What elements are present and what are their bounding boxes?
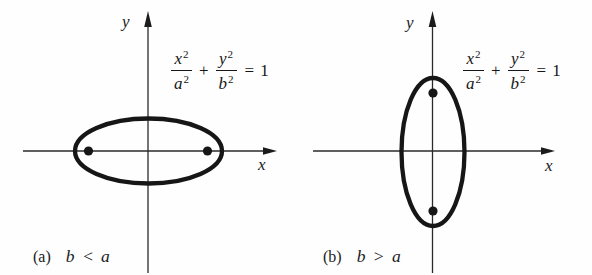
eq-b: b: [219, 74, 228, 93]
eq-x-exponent: 2: [475, 48, 481, 60]
x-axis-arrowhead-icon: [541, 147, 555, 155]
eq-a: a: [466, 74, 475, 93]
ellipse-equation-a: x2 a2 + y2 b2 = 1: [171, 49, 269, 92]
eq-b-exponent: 2: [520, 73, 526, 85]
ellipse-figure: y x x2 a2 + y2 b2 = 1 (a) b < a y x x2 a…: [0, 0, 592, 275]
x-axis-label: x: [545, 157, 553, 174]
eq-b: b: [511, 74, 520, 93]
fraction-y2-b2: y2 b2: [216, 49, 237, 92]
eq-x: x: [174, 49, 182, 68]
eq-a: a: [174, 74, 183, 93]
x-axis-label: x: [258, 156, 266, 173]
fraction-x2-a2: x2 a2: [463, 49, 484, 92]
focus-dot-top: [428, 88, 437, 97]
diagram-canvas: [0, 0, 592, 275]
focus-dot-right: [203, 146, 212, 155]
eq-rhs: 1: [552, 62, 561, 79]
ellipse-equation-b: x2 a2 + y2 b2 = 1: [463, 49, 561, 92]
eq-y: y: [511, 49, 519, 68]
eq-rhs: 1: [260, 62, 269, 79]
fraction-x2-a2: x2 a2: [171, 49, 192, 92]
caption-b: (b) b > a: [323, 248, 402, 266]
fraction-y2-b2: y2 b2: [508, 49, 529, 92]
caption-b-condition: b > a: [357, 248, 403, 266]
plus-sign: +: [491, 62, 501, 79]
caption-a: (a) b < a: [33, 248, 111, 266]
equals-sign: =: [245, 62, 255, 79]
plus-sign: +: [199, 62, 209, 79]
x-axis-arrowhead-icon: [263, 147, 277, 155]
eq-x-exponent: 2: [183, 48, 189, 60]
eq-y-exponent: 2: [520, 48, 526, 60]
eq-y-exponent: 2: [228, 48, 234, 60]
eq-a-exponent: 2: [184, 73, 190, 85]
eq-b-exponent: 2: [228, 73, 234, 85]
eq-a-exponent: 2: [476, 73, 482, 85]
eq-x: x: [466, 49, 474, 68]
equals-sign: =: [537, 62, 547, 79]
eq-y: y: [219, 49, 227, 68]
caption-a-condition: b < a: [66, 248, 112, 266]
y-axis-label: y: [122, 13, 130, 30]
focus-dot-bottom: [428, 206, 437, 215]
focus-dot-left: [84, 146, 93, 155]
caption-b-label: (b): [323, 249, 342, 265]
y-axis-arrowhead-icon: [144, 11, 152, 27]
y-axis-label: y: [406, 14, 414, 31]
y-axis-arrowhead-icon: [429, 11, 437, 27]
caption-a-label: (a): [33, 249, 51, 265]
